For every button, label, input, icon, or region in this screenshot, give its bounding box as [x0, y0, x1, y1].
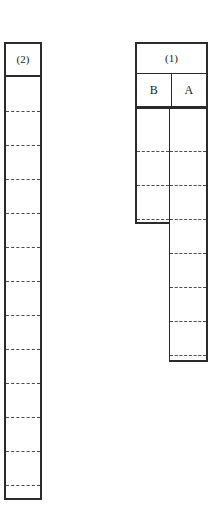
column-1-subheader-row: B A	[137, 74, 206, 106]
column-1-header-block: (1) B A	[135, 42, 208, 108]
subcolumn-a-body	[170, 108, 208, 362]
column-2-body	[6, 77, 40, 498]
column-1-header: (1)	[137, 44, 206, 74]
subcolumn-a-header: A	[172, 74, 207, 106]
figure-canvas: (2) (1) B A	[0, 0, 215, 515]
column-2: (2)	[4, 42, 42, 500]
subcolumn-b-body	[135, 108, 170, 224]
subcolumn-b-header: B	[137, 74, 172, 106]
column-2-header: (2)	[6, 44, 40, 77]
subcolumn-divider	[169, 108, 170, 362]
